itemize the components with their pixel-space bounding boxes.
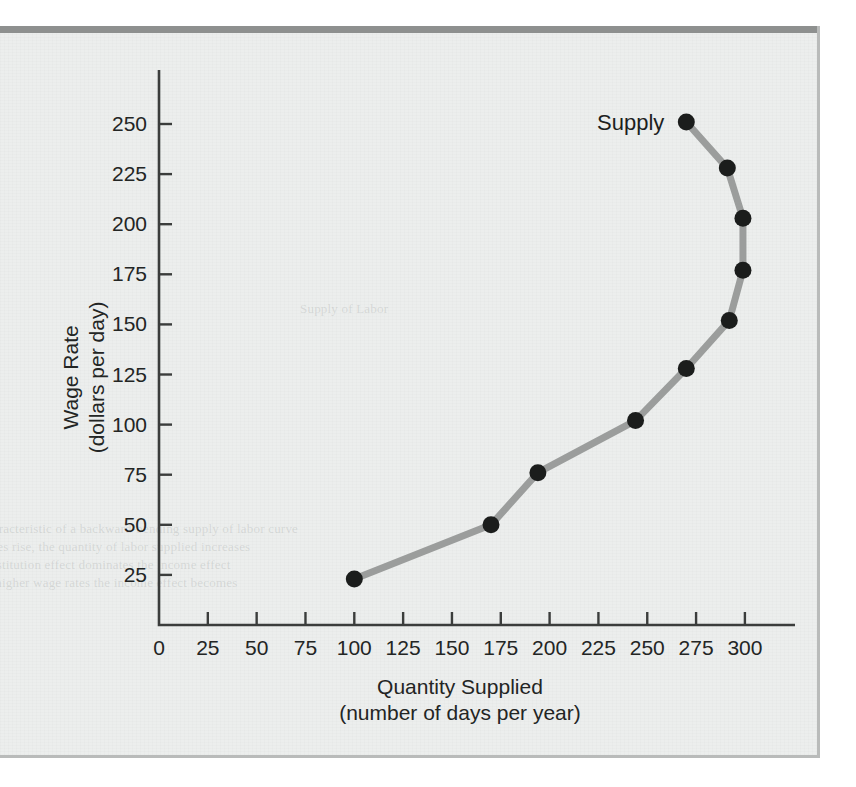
supply-curve-point [678,360,695,377]
axes [159,70,795,625]
y-tick-label: 25 [124,563,147,586]
supply-curve-point [721,312,738,329]
x-tick-label: 125 [386,636,421,659]
series-annotations: Supply [597,110,664,135]
y-tick-label: 200 [112,212,147,235]
x-tick-label: 200 [532,636,567,659]
x-tick-label: 175 [483,636,518,659]
x-tick-label: 250 [630,636,665,659]
supply-series [346,113,752,587]
supply-curve-point [346,570,363,587]
supply-curve-point [529,464,546,481]
supply-curve-point [678,113,695,130]
panel-bottom-rule [0,755,820,758]
supply-curve-line [354,122,743,579]
supply-curve-point [734,262,751,279]
y-tick-label: 125 [112,363,147,386]
x-tick-label: 50 [245,636,268,659]
supply-curve-point [483,516,500,533]
y-tick-label: 75 [124,463,147,486]
x-tick-label: 25 [196,636,219,659]
y-tick-label: 250 [112,112,147,135]
y-tick-label: 225 [112,162,147,185]
supply-curve-point [627,412,644,429]
x-tick-label: 225 [581,636,616,659]
y-axis-ticks: 255075100125150175200225250 [112,112,172,586]
x-tick-label: 300 [727,636,762,659]
y-tick-label: 100 [112,413,147,436]
axis-lines [159,70,795,625]
series-label-supply: Supply [597,110,664,135]
x-axis-ticks: 0255075100125150175200225250275300 [153,612,762,659]
y-axis-subtitle: (dollars per day) [85,302,108,454]
supply-curve-chart: 255075100125150175200225250 025507510012… [0,26,820,758]
y-axis-title: Wage Rate [59,325,82,429]
y-tick-label: 50 [124,513,147,536]
supply-curve-point [734,210,751,227]
y-tick-label: 150 [112,312,147,335]
x-tick-label: 150 [434,636,469,659]
x-axis-subtitle: (number of days per year) [339,701,581,724]
panel-right-rule [817,26,820,758]
supply-curve-point [719,160,736,177]
x-tick-label: 275 [679,636,714,659]
y-tick-label: 175 [112,262,147,285]
x-tick-label: 75 [294,636,317,659]
panel-top-rule [0,26,820,33]
x-axis-title: Quantity Supplied [377,675,543,698]
x-tick-label: 100 [337,636,372,659]
figure-panel: Supply of Labor characteristic of a back… [0,26,820,758]
x-tick-label: 0 [153,636,165,659]
